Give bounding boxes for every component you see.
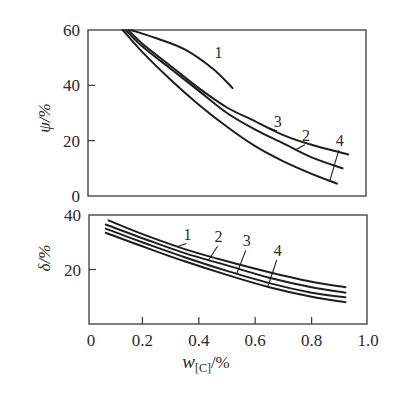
x-axis-label: w[C]/% [182,351,230,375]
x-axis-label-subscript: [C] [195,361,211,375]
top-y-axis-label: ψ/% [35,103,54,132]
curve-label-2: 2 [215,228,223,245]
curve-label-4: 4 [336,132,344,149]
bottom-curves [106,220,346,302]
x-tick-label: 0.2 [132,331,153,350]
y-tick-label: 40 [64,206,81,225]
x-tick-label: 1.0 [357,331,378,350]
y-tick-label: 0 [72,187,81,206]
y-tick-label: 60 [63,21,80,40]
bottom-y-axis-label: δ/% [35,245,54,272]
x-tick-label: 0.6 [245,331,266,350]
y-tick-label: 40 [63,76,80,95]
y-tick-label: 20 [63,132,80,151]
curve-label-3: 3 [243,232,251,249]
curve-label-3: 3 [274,113,282,130]
leader-line-1 [178,244,187,247]
x-tick-label: 0.8 [301,331,322,350]
curve-label-1: 1 [215,44,223,61]
curve-label-2: 2 [302,127,310,144]
x-axis-label-unit: /% [211,353,230,372]
curve-2 [126,30,343,168]
x-tick-label: 0.4 [188,331,210,350]
y-tick-label: 20 [64,261,81,280]
bottom-panel-frame [89,215,367,324]
bottom-panel-delta: 204000.20.40.60.81.0 1234 δ/% [35,206,379,350]
top-panel-psi: 0204060 1324 ψ/% [35,21,366,206]
curve-label-1: 1 [184,226,192,243]
leader-line-2 [296,145,305,150]
curve-1 [109,220,346,287]
x-axis-label-symbol: w [182,351,195,372]
top-curves [123,30,349,184]
leader-line-4 [330,150,339,181]
x-tick-label: 0 [87,331,96,350]
top-y-ticks: 0204060 [63,21,95,206]
carbon-content-chart: 0204060 1324 ψ/% 204000.20.40.60.81.0 12… [0,0,396,403]
curve-label-4: 4 [274,242,282,259]
